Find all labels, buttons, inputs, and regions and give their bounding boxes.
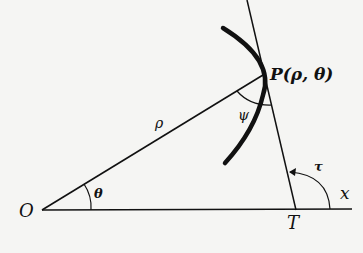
tau-angle-arc <box>290 172 330 209</box>
label-point-p: P(ρ, θ) <box>270 66 333 83</box>
label-origin: O <box>19 202 34 220</box>
psi-angle-arc <box>237 91 272 105</box>
label-angle-tau: τ <box>314 160 323 173</box>
label-angle-theta: θ <box>94 187 103 200</box>
diagram-graphics <box>0 0 363 253</box>
label-angle-psi: ψ <box>238 108 249 122</box>
label-radius-rho: ρ <box>155 116 163 130</box>
tau-arrowhead-icon <box>289 168 296 176</box>
label-x-axis: x <box>340 185 350 202</box>
radius-vector-line <box>42 75 263 210</box>
x-axis-line <box>42 209 352 210</box>
polar-tangent-diagram: O P(ρ, θ) ρ θ ψ τ T x <box>0 0 363 253</box>
theta-angle-arc <box>84 184 91 210</box>
label-tangent-foot-t: T <box>287 214 299 232</box>
